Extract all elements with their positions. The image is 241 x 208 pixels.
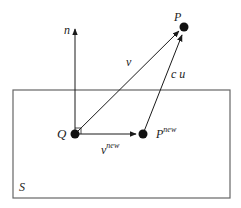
label-n: n [64,24,70,36]
label-region-s: S [19,181,25,193]
vector-cu [143,35,182,134]
label-cu: c u [171,68,185,80]
point-q [71,130,80,139]
region-s-frame [13,90,230,198]
label-p-new-sup: new [163,125,176,134]
point-p-new [139,130,148,139]
diagram-canvas [0,0,241,208]
label-p: P [174,11,181,23]
label-v: v [126,56,131,68]
label-v-new-sup: new [106,141,119,150]
label-p-new: Pnew [156,127,176,140]
label-q: Q [57,127,66,140]
label-v-new: vnew [101,143,119,156]
